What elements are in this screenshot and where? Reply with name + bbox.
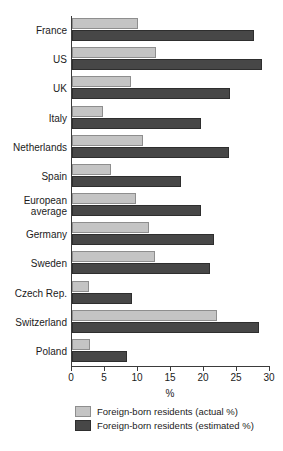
x-tick-0 bbox=[71, 367, 72, 371]
category-label: Switzerland bbox=[1, 317, 67, 328]
legend-swatch-actual bbox=[75, 406, 91, 417]
x-tick-15 bbox=[170, 367, 171, 371]
x-tick-label-25: 25 bbox=[221, 372, 251, 383]
chart-page: 051015202530 FranceUSUKItalyNetherlandsS… bbox=[0, 0, 283, 451]
bar-actual bbox=[72, 47, 156, 58]
chart-title bbox=[0, 0, 283, 4]
x-tick-label-0: 0 bbox=[56, 372, 86, 383]
legend-label-estimated: Foreign-born residents (estimated %) bbox=[97, 420, 254, 431]
bar-group: France bbox=[71, 16, 269, 45]
bar-estimated bbox=[72, 263, 210, 274]
bar-estimated bbox=[72, 59, 262, 70]
bar-group: European average bbox=[71, 191, 269, 220]
legend-swatch-estimated bbox=[75, 420, 91, 431]
x-tick-label-30: 30 bbox=[254, 372, 283, 383]
bar-group: Sweden bbox=[71, 249, 269, 278]
x-tick-5 bbox=[104, 367, 105, 371]
bar-estimated bbox=[72, 234, 214, 245]
bar-estimated bbox=[72, 205, 201, 216]
bar-actual bbox=[72, 135, 143, 146]
category-label: Poland bbox=[1, 346, 67, 357]
bar-estimated bbox=[72, 293, 132, 304]
bar-actual bbox=[72, 310, 217, 321]
bar-actual bbox=[72, 251, 155, 262]
bar-group: Italy bbox=[71, 104, 269, 133]
bar-actual bbox=[72, 193, 136, 204]
x-axis-title: % bbox=[71, 388, 269, 399]
x-tick-label-15: 15 bbox=[155, 372, 185, 383]
x-tick-label-5: 5 bbox=[89, 372, 119, 383]
bar-estimated bbox=[72, 30, 254, 41]
category-label: Germany bbox=[1, 229, 67, 240]
bar-group: Switzerland bbox=[71, 308, 269, 337]
chart-legend: Foreign-born residents (actual %) Foreig… bbox=[75, 406, 280, 434]
legend-label-actual: Foreign-born residents (actual %) bbox=[97, 406, 238, 417]
category-label: Spain bbox=[1, 171, 67, 182]
category-label: UK bbox=[1, 83, 67, 94]
x-tick-30 bbox=[269, 367, 270, 371]
category-label: Italy bbox=[1, 113, 67, 124]
bar-group: UK bbox=[71, 74, 269, 103]
bar-actual bbox=[72, 76, 131, 87]
x-tick-label-10: 10 bbox=[122, 372, 152, 383]
x-tick-label-20: 20 bbox=[188, 372, 218, 383]
bar-actual bbox=[72, 106, 103, 117]
x-tick-25 bbox=[236, 367, 237, 371]
bar-group: Poland bbox=[71, 337, 269, 366]
category-label: Sweden bbox=[1, 258, 67, 269]
category-label: Netherlands bbox=[1, 142, 67, 153]
bar-estimated bbox=[72, 147, 229, 158]
bar-estimated bbox=[72, 176, 181, 187]
plot-area: 051015202530 FranceUSUKItalyNetherlandsS… bbox=[71, 16, 269, 366]
bar-group: Netherlands bbox=[71, 133, 269, 162]
bar-estimated bbox=[72, 322, 259, 333]
bar-actual bbox=[72, 339, 90, 350]
bar-estimated bbox=[72, 351, 127, 362]
bar-actual bbox=[72, 281, 89, 292]
bar-group: US bbox=[71, 45, 269, 74]
bar-group: Germany bbox=[71, 220, 269, 249]
bar-actual bbox=[72, 164, 111, 175]
bar-actual bbox=[72, 222, 149, 233]
category-label: Czech Rep. bbox=[1, 288, 67, 299]
bar-estimated bbox=[72, 118, 201, 129]
legend-item-estimated: Foreign-born residents (estimated %) bbox=[75, 420, 280, 431]
legend-item-actual: Foreign-born residents (actual %) bbox=[75, 406, 280, 417]
x-tick-10 bbox=[137, 367, 138, 371]
bar-actual bbox=[72, 18, 138, 29]
category-label: European average bbox=[1, 195, 67, 217]
category-label: US bbox=[1, 54, 67, 65]
bar-estimated bbox=[72, 88, 230, 99]
bar-group: Czech Rep. bbox=[71, 279, 269, 308]
bar-group: Spain bbox=[71, 162, 269, 191]
x-tick-20 bbox=[203, 367, 204, 371]
category-label: France bbox=[1, 25, 67, 36]
